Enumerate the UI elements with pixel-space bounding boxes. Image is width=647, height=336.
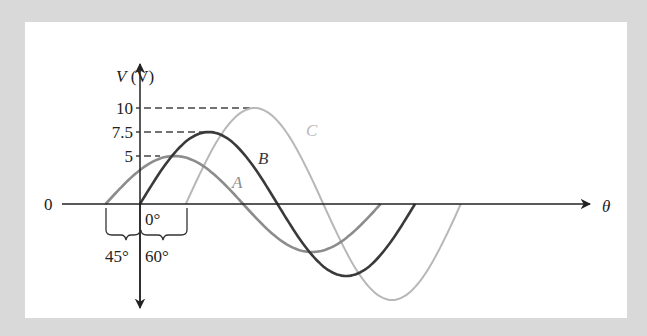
origin-label: 0	[44, 195, 53, 214]
phase-label-0: 0°	[145, 210, 160, 229]
x-axis-label: θ	[602, 197, 610, 216]
curve-label-b: B	[258, 149, 269, 168]
tick-5: 5	[125, 147, 134, 166]
brace-45	[106, 230, 140, 240]
phase-diagram: V (V) θ 0 10 7.5 5 0° 45° 60° A B C	[0, 0, 647, 336]
curve-label-a: A	[231, 173, 243, 192]
curve-label-c: C	[306, 121, 318, 140]
phase-label-60: 60°	[145, 247, 169, 266]
y-axis-label: V (V)	[116, 67, 154, 86]
tick-10: 10	[116, 99, 133, 118]
phase-label-45: 45°	[105, 247, 129, 266]
brace-60	[141, 230, 187, 240]
tick-7.5: 7.5	[112, 123, 133, 142]
